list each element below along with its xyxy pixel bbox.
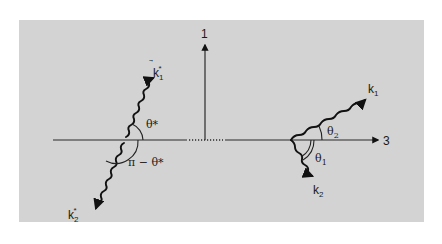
photon-decay-diagram: 1 3 θ* π − θ* k1* ⃗ k2* <box>0 0 442 244</box>
angle-pi-minus-theta-star-label: π − θ* <box>128 156 164 169</box>
angle-theta-star-label: θ* <box>146 118 159 131</box>
axis-1-label: 1 <box>201 27 208 41</box>
diagram-background <box>19 20 424 222</box>
axis-3-label: 3 <box>383 134 390 148</box>
